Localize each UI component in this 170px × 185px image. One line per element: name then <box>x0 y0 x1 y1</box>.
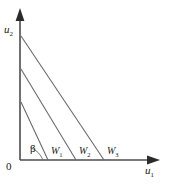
axis-label-u1-subscript: 1 <box>151 171 155 179</box>
line-label-w1-subscript: 1 <box>59 151 62 158</box>
axis-label-u1: u1 <box>145 165 154 179</box>
line-label-w3-subscript: 3 <box>115 151 118 158</box>
line-label-w2: W2 <box>79 146 91 159</box>
axis-label-u2: u2 <box>4 24 13 38</box>
figure-container: u2 u1 0 β W1 W2 W3 <box>0 0 170 185</box>
line-label-w1: W1 <box>51 146 63 159</box>
line-label-w3: W3 <box>107 146 119 159</box>
axis-label-u2-subscript: 2 <box>10 30 14 38</box>
line-label-w2-subscript: 2 <box>87 151 90 158</box>
angle-label-beta: β <box>30 143 36 154</box>
vertical-axis-arrow-icon <box>16 8 25 21</box>
origin-label: 0 <box>6 161 12 172</box>
